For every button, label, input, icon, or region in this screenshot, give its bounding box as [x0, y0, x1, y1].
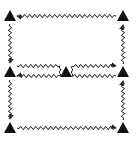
- nodes: [4, 10, 129, 133]
- edge-ml-to-mc: [17, 64, 61, 71]
- triangle-node-tl: [4, 10, 16, 21]
- edge-mc-to-mr: [71, 64, 116, 71]
- edge-tl-to-ml: [8, 24, 11, 63]
- triangle-node-tr: [117, 10, 129, 21]
- triangle-node-mc: [60, 66, 72, 77]
- triangle-node-br: [117, 122, 129, 133]
- triangle-node-bl: [4, 122, 16, 133]
- edge-ml-to-bl: [8, 80, 11, 119]
- triangle-node-mr: [117, 66, 129, 77]
- edge-mc-to-ml: [17, 71, 61, 78]
- wavy-arrow-graph: [0, 0, 138, 141]
- edge-mr-to-tr: [121, 25, 124, 64]
- triangle-node-ml: [4, 66, 16, 77]
- edge-tr-to-tl: [17, 14, 116, 17]
- edge-mr-to-mc: [71, 71, 116, 78]
- edge-bl-to-br: [17, 126, 116, 129]
- edge-br-to-mr: [121, 81, 124, 120]
